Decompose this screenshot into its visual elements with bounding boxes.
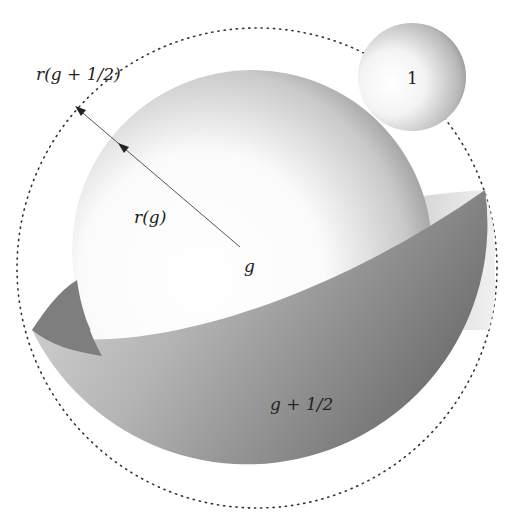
label-outer-radius: r(g + 1/2) (36, 64, 121, 84)
nested-spheres-diagram: r(g + 1/2) r(g) g g + 1/2 1 (0, 0, 507, 529)
label-unit-sphere: 1 (407, 68, 418, 88)
label-shell: g + 1/2 (270, 394, 333, 414)
label-inner-center: g (244, 256, 255, 276)
label-inner-radius: r(g) (134, 207, 166, 227)
